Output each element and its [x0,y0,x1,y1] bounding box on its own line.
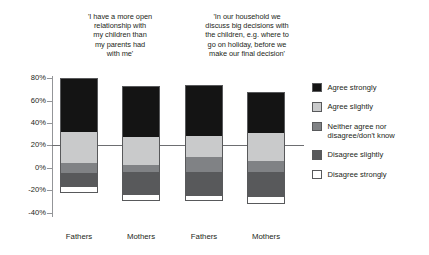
legend-swatch-disagree-slightly-icon [312,150,322,160]
y-axis-label-60: 60% [12,97,46,105]
x-axis-label-mothers-q1: Mothers [111,232,171,241]
segment-agree-strongly[interactable] [185,85,223,136]
title-2-line-5: make our final decision' [182,49,312,58]
segment-agree-strongly[interactable] [60,78,98,132]
segment-agree-slightly[interactable] [185,136,223,157]
legend-swatch-agree-strongly-icon [312,83,322,93]
legend-item-agree-strongly[interactable]: Agree strongly [312,82,429,92]
segment-disagree-slightly[interactable] [60,173,98,187]
y-axis-label-20: 20% [12,141,46,149]
title-2-line-2: discuss big decisions with [182,21,312,30]
title-1-line-1: 'I have a more open [58,12,182,21]
segment-disagree-slightly[interactable] [185,172,223,196]
legend-swatch-disagree-strongly-icon [312,170,322,180]
y-axis-tick-40 [47,123,53,124]
segment-disagree-strongly[interactable] [122,195,160,201]
y-axis-label-0: 0% [12,164,46,172]
segment-agree-slightly[interactable] [60,132,98,163]
y-axis-tick-neg40 [47,213,53,214]
title-2-line-1: 'In our household we [182,12,312,21]
title-1-line-5: with me' [58,49,182,58]
legend-label-neither-line-2: disagree/don't know [328,131,395,140]
y-axis-label-80: 80% [12,74,46,82]
legend-label-disagree-slightly: Disagree slightly [328,150,384,160]
segment-disagree-strongly[interactable] [185,196,223,201]
y-axis-tick-80 [47,78,53,79]
legend-item-neither[interactable]: Neither agree nor disagree/don't know [312,121,429,140]
segment-disagree-strongly[interactable] [60,187,98,193]
title-1-line-2: relationship with [58,21,182,30]
y-axis-tick-60 [47,101,53,102]
legend-item-disagree-slightly[interactable]: Disagree slightly [312,150,429,160]
segment-disagree-strongly[interactable] [247,197,285,204]
legend-swatch-agree-slightly-icon [312,102,322,112]
legend-item-disagree-strongly[interactable]: Disagree strongly [312,169,429,179]
segment-agree-slightly[interactable] [247,133,285,161]
title-1-line-4: my parents had [58,40,182,49]
segment-disagree-slightly[interactable] [122,172,160,195]
x-axis-label-mothers-q2: Mothers [236,232,296,241]
stacked-bar-chart: 'I have a more open relationship with my… [0,0,429,255]
question-title-2: 'In our household we discuss big decisio… [182,12,312,58]
y-axis-tick-0 [47,168,53,169]
legend-label-agree-slightly: Agree slightly [328,102,374,112]
legend-item-agree-slightly[interactable]: Agree slightly [312,102,429,112]
title-2-line-3: the children, e.g. where to [182,30,312,39]
segment-neither[interactable] [122,165,160,172]
chart-legend: Agree strongly Agree slightly Neither ag… [312,82,429,189]
title-1-line-3: my children than [58,30,182,39]
y-axis-label-neg20: -20% [12,186,46,194]
y-axis-tick-neg20 [47,190,53,191]
legend-label-neither-line-1: Neither agree nor [328,122,395,131]
segment-agree-strongly[interactable] [122,86,160,137]
segment-disagree-slightly[interactable] [247,172,285,197]
y-axis-label-40: 40% [12,119,46,127]
segment-agree-slightly[interactable] [122,137,160,165]
legend-label-neither: Neither agree nor disagree/don't know [328,121,395,140]
y-axis-line [52,76,53,217]
segment-neither[interactable] [185,157,223,172]
segment-neither[interactable] [60,163,98,173]
x-axis-label-fathers-q1: Fathers [49,232,109,241]
x-axis-label-fathers-q2: Fathers [174,232,234,241]
y-axis-label-neg40: -40% [12,209,46,217]
question-title-1: 'I have a more open relationship with my… [58,12,182,58]
legend-label-agree-strongly: Agree strongly [328,82,377,92]
legend-label-disagree-strongly: Disagree strongly [328,169,387,179]
legend-swatch-neither-icon [312,122,322,132]
segment-neither[interactable] [247,161,285,172]
title-2-line-4: go on holiday, before we [182,40,312,49]
segment-agree-strongly[interactable] [247,92,285,133]
y-axis-labels: 80% 60% 40% 20% 0% -20% -40% [8,0,46,255]
